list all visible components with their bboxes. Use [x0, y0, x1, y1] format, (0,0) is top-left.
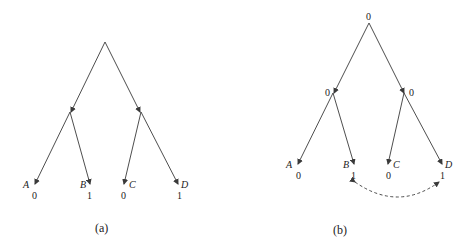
root-label: 0 — [366, 11, 371, 22]
internal-left-label: 0 — [325, 87, 330, 98]
edge-root-right — [105, 42, 140, 112]
tree-diagrams: A B C D 0 1 0 1 (a) 0 0 0 A B C D 0 1 0 … — [0, 0, 472, 249]
internal-right-label: 0 — [409, 87, 414, 98]
edge-right-c — [124, 112, 141, 184]
caption-a: (a) — [95, 221, 108, 235]
leaf-a-value: 0 — [32, 190, 37, 201]
caption-b: (b) — [333, 223, 347, 237]
leaf-d-value: 1 — [440, 170, 445, 181]
edge-right-d — [404, 93, 442, 164]
leaf-b-name: B — [80, 179, 86, 190]
edge-left-a — [298, 93, 333, 164]
leaf-b-value: 1 — [87, 190, 92, 201]
edge-left-b — [70, 112, 90, 184]
edge-root-left — [71, 42, 105, 112]
panel-b: 0 0 0 A B C D 0 1 0 1 (b) — [285, 11, 453, 237]
leaf-b-value: 1 — [351, 170, 356, 181]
leaf-c-name: C — [129, 179, 136, 190]
leaf-d-name: D — [444, 159, 453, 170]
edge-root-right — [369, 23, 404, 93]
edge-left-a — [35, 112, 70, 184]
leaf-d-name: D — [180, 179, 189, 190]
leaf-c-value: 0 — [386, 170, 391, 181]
leaf-a-value: 0 — [296, 170, 301, 181]
leaf-c-name: C — [393, 159, 400, 170]
leaf-d-value: 1 — [177, 190, 182, 201]
edge-left-b — [333, 93, 354, 164]
leaf-b-name: B — [343, 159, 349, 170]
leaf-c-value: 0 — [121, 190, 126, 201]
dashed-link-b-d — [355, 182, 439, 197]
edge-right-d — [141, 112, 178, 184]
panel-a: A B C D 0 1 0 1 (a) — [22, 42, 189, 235]
edge-root-left — [334, 23, 369, 93]
edge-right-c — [388, 93, 404, 164]
leaf-a-name: A — [22, 179, 30, 190]
leaf-a-name: A — [285, 159, 293, 170]
